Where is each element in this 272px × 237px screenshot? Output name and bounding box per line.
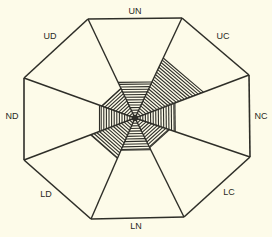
- octagon-outline: [24, 18, 250, 219]
- sector-label-ln: LN: [130, 221, 142, 231]
- sector-label-lc: LC: [223, 187, 235, 197]
- sector-label-un: UN: [129, 6, 142, 16]
- octagon-diagram: [0, 0, 272, 237]
- sector-label-nc: NC: [255, 111, 268, 121]
- sector-label-ld: LD: [40, 189, 52, 199]
- sector-label-ud: UD: [44, 31, 57, 41]
- sector-label-nd: ND: [6, 111, 19, 121]
- sector-label-uc: UC: [217, 31, 230, 41]
